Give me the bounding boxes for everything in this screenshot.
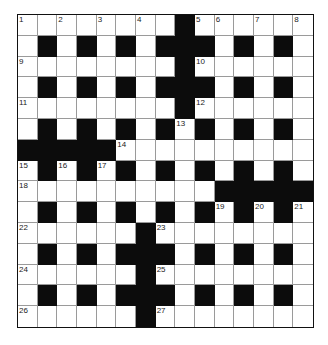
answer-square[interactable]: 26 — [18, 306, 38, 327]
answer-square[interactable] — [293, 244, 313, 265]
answer-square[interactable] — [38, 98, 58, 119]
answer-square[interactable] — [38, 57, 58, 78]
answer-square[interactable]: 17 — [97, 161, 117, 182]
answer-square[interactable] — [97, 119, 117, 140]
answer-square[interactable] — [97, 36, 117, 57]
answer-square[interactable] — [97, 244, 117, 265]
answer-square[interactable] — [274, 57, 294, 78]
answer-square[interactable] — [293, 223, 313, 244]
answer-square[interactable] — [254, 285, 274, 306]
answer-square[interactable] — [254, 77, 274, 98]
answer-square[interactable] — [18, 244, 38, 265]
answer-square[interactable] — [195, 181, 215, 202]
answer-square[interactable] — [156, 15, 176, 36]
answer-square[interactable]: 15 — [18, 161, 38, 182]
answer-square[interactable] — [175, 140, 195, 161]
answer-square[interactable] — [175, 202, 195, 223]
answer-square[interactable]: 20 — [254, 202, 274, 223]
answer-square[interactable] — [77, 57, 97, 78]
answer-square[interactable] — [254, 119, 274, 140]
answer-square[interactable] — [234, 140, 254, 161]
answer-square[interactable] — [254, 244, 274, 265]
answer-square[interactable] — [116, 98, 136, 119]
answer-square[interactable] — [18, 285, 38, 306]
answer-square[interactable] — [293, 161, 313, 182]
answer-square[interactable] — [293, 57, 313, 78]
answer-square[interactable] — [274, 15, 294, 36]
answer-square[interactable] — [77, 181, 97, 202]
answer-square[interactable] — [38, 306, 58, 327]
answer-square[interactable] — [175, 285, 195, 306]
answer-square[interactable] — [215, 285, 235, 306]
answer-square[interactable] — [254, 306, 274, 327]
answer-square[interactable]: 25 — [156, 265, 176, 286]
answer-square[interactable] — [97, 306, 117, 327]
answer-square[interactable] — [38, 265, 58, 286]
answer-square[interactable]: 23 — [156, 223, 176, 244]
answer-square[interactable] — [97, 285, 117, 306]
answer-square[interactable] — [116, 223, 136, 244]
answer-square[interactable] — [136, 161, 156, 182]
answer-square[interactable] — [57, 244, 77, 265]
answer-square[interactable] — [38, 15, 58, 36]
answer-square[interactable] — [293, 98, 313, 119]
answer-square[interactable] — [136, 77, 156, 98]
answer-square[interactable] — [215, 119, 235, 140]
answer-square[interactable] — [215, 244, 235, 265]
answer-square[interactable] — [254, 223, 274, 244]
answer-square[interactable] — [97, 265, 117, 286]
answer-square[interactable] — [97, 57, 117, 78]
answer-square[interactable] — [254, 57, 274, 78]
answer-square[interactable] — [274, 265, 294, 286]
answer-square[interactable] — [116, 57, 136, 78]
answer-square[interactable] — [77, 265, 97, 286]
answer-square[interactable] — [215, 265, 235, 286]
answer-square[interactable] — [215, 57, 235, 78]
answer-square[interactable] — [254, 161, 274, 182]
answer-square[interactable]: 16 — [57, 161, 77, 182]
answer-square[interactable] — [195, 140, 215, 161]
answer-square[interactable] — [57, 36, 77, 57]
answer-square[interactable] — [195, 265, 215, 286]
answer-square[interactable] — [234, 265, 254, 286]
answer-square[interactable] — [77, 98, 97, 119]
answer-square[interactable] — [18, 119, 38, 140]
answer-square[interactable] — [234, 57, 254, 78]
answer-square[interactable] — [57, 202, 77, 223]
answer-square[interactable] — [116, 181, 136, 202]
answer-square[interactable] — [136, 202, 156, 223]
answer-square[interactable]: 18 — [18, 181, 38, 202]
answer-square[interactable] — [97, 77, 117, 98]
answer-square[interactable] — [77, 223, 97, 244]
answer-square[interactable] — [293, 36, 313, 57]
answer-square[interactable]: 27 — [156, 306, 176, 327]
answer-square[interactable] — [215, 98, 235, 119]
answer-square[interactable] — [116, 265, 136, 286]
answer-square[interactable] — [18, 202, 38, 223]
answer-square[interactable]: 8 — [293, 15, 313, 36]
answer-square[interactable]: 1 — [18, 15, 38, 36]
answer-square[interactable] — [274, 223, 294, 244]
answer-square[interactable] — [215, 36, 235, 57]
answer-square[interactable]: 5 — [195, 15, 215, 36]
answer-square[interactable]: 10 — [195, 57, 215, 78]
answer-square[interactable]: 13 — [175, 119, 195, 140]
answer-square[interactable] — [215, 223, 235, 244]
answer-square[interactable] — [293, 306, 313, 327]
answer-square[interactable] — [156, 140, 176, 161]
answer-square[interactable]: 12 — [195, 98, 215, 119]
answer-square[interactable] — [234, 306, 254, 327]
answer-square[interactable] — [254, 36, 274, 57]
answer-square[interactable] — [215, 140, 235, 161]
answer-square[interactable] — [97, 202, 117, 223]
answer-square[interactable] — [97, 181, 117, 202]
answer-square[interactable]: 2 — [57, 15, 77, 36]
answer-square[interactable] — [175, 181, 195, 202]
answer-square[interactable] — [195, 223, 215, 244]
answer-square[interactable] — [234, 223, 254, 244]
answer-square[interactable] — [57, 181, 77, 202]
answer-square[interactable] — [97, 223, 117, 244]
answer-square[interactable]: 22 — [18, 223, 38, 244]
answer-square[interactable] — [18, 77, 38, 98]
answer-square[interactable]: 7 — [254, 15, 274, 36]
